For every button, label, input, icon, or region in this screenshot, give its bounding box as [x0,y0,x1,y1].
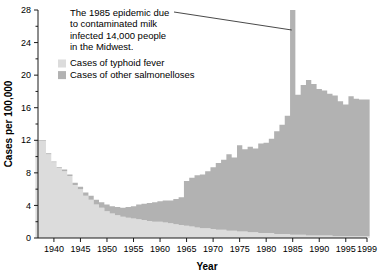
x-tick-label: 1955 [124,244,144,254]
salmonellosis-typhoid-area-chart: 0481216202428 19401945195019551960196519… [0,0,380,275]
annotation-leader-line [174,12,292,30]
x-tick-label: 1975 [230,244,250,254]
chart-legend: Cases of typhoid feverCases of other sal… [58,57,195,80]
annotation-line: to contaminated milk [70,18,157,29]
annotation-line: The 1985 epidemic due [70,7,169,18]
y-tick-label: 20 [21,70,31,80]
x-tick-label: 1990 [309,244,329,254]
x-tick-label: 1985 [283,244,303,254]
x-axis-ticks: 1940194519501955196019651970197519801985… [44,238,377,254]
x-tick-label: 1950 [97,244,117,254]
y-tick-label: 4 [26,201,31,211]
annotation-line: in the Midwest. [70,41,133,52]
epidemic-annotation: The 1985 epidemic dueto contaminated mil… [70,7,292,52]
x-tick-label: 1999 [357,244,377,254]
x-tick-label: 1940 [44,244,64,254]
y-tick-label: 16 [21,103,31,113]
x-tick-label: 1960 [150,244,170,254]
x-tick-label: 1945 [70,244,90,254]
x-tick-label: 1965 [177,244,197,254]
annotation-line: infected 14,000 people [70,30,166,41]
legend-label: Cases of other salmonelloses [70,69,195,80]
y-tick-label: 12 [21,135,31,145]
chart-container: 0481216202428 19401945195019551960196519… [0,0,380,275]
legend-label: Cases of typhoid fever [70,57,165,68]
y-axis-label: Cases per 100,000 [3,80,14,167]
legend-swatch [58,71,66,79]
legend-swatch [58,60,66,68]
y-tick-label: 24 [21,38,31,48]
x-tick-label: 1980 [256,244,276,254]
x-tick-label: 1970 [203,244,223,254]
y-tick-label: 28 [21,5,31,15]
y-tick-label: 8 [26,168,31,178]
x-axis-label: Year [196,261,217,272]
y-tick-label: 0 [26,233,31,243]
x-tick-label: 1995 [336,244,356,254]
